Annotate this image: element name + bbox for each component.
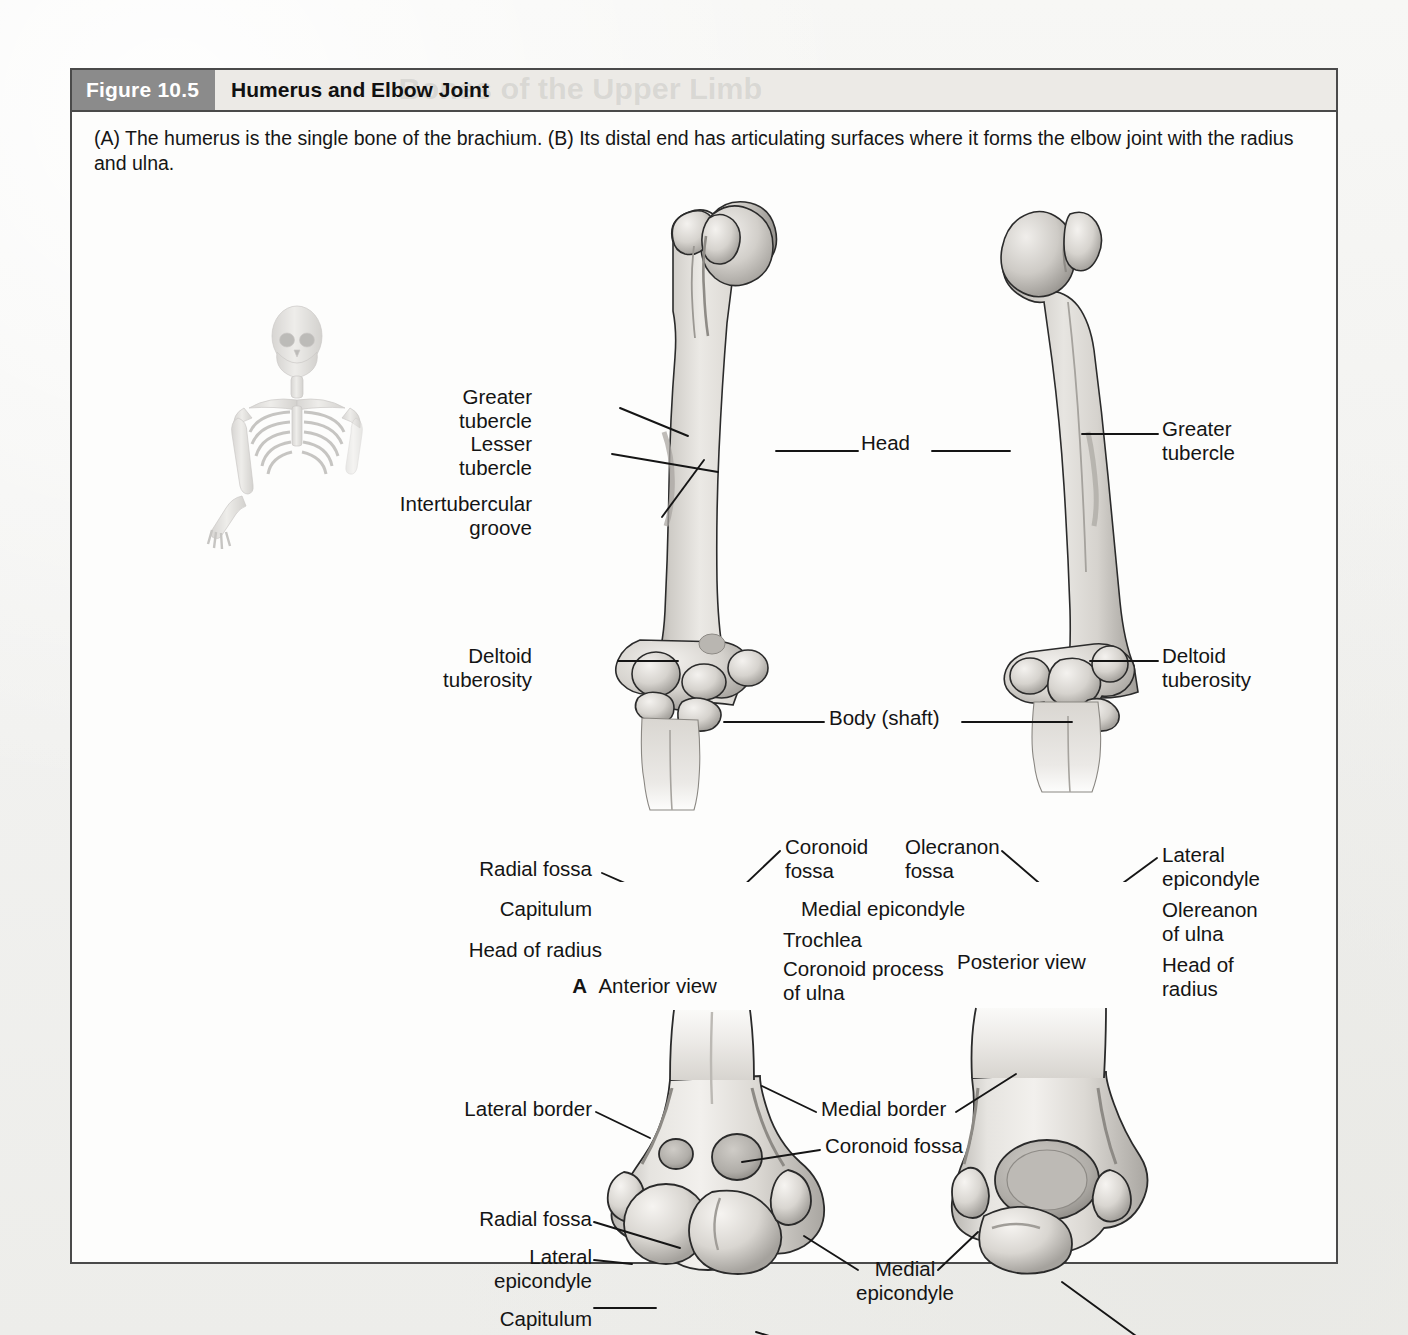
humerus-posterior — [1001, 211, 1138, 792]
label-lateral-border: Lateral border — [392, 1097, 592, 1121]
label-deltoid-tuberosity-anterior: Deltoid tuberosity — [372, 644, 532, 692]
label-head-of-radius-posterior: Head of radius — [1162, 953, 1234, 1001]
label-lesser-tubercle: Lesser tubercle — [372, 432, 532, 480]
panel-a-anterior-view-text: Anterior view — [598, 974, 717, 997]
panel-a-letter: A — [572, 974, 587, 997]
figure-title: Humerus and Elbow Joint — [215, 70, 489, 110]
label-olecranon-of-ulna: Olereanon of ulna — [1162, 898, 1258, 946]
label-coronoid-process-of-ulna: Coronoid process of ulna — [783, 957, 944, 1005]
figure-artwork: Greater tubercle Lesser tubercle Intertu… — [72, 182, 1336, 1262]
label-coronoid-fossa-distal: Coronoid fossa — [825, 1134, 963, 1158]
humerus-anterior — [616, 202, 777, 810]
label-medial-epicondyle-anterior: Medial epicondyle — [801, 897, 965, 921]
label-greater-tubercle-anterior: Greater tubercle — [372, 385, 532, 433]
label-body-shaft: Body (shaft) — [829, 706, 940, 730]
panel-b-illustration — [72, 1002, 1336, 1335]
figure-header: Bones of the Upper Limb Figure 10.5 Hume… — [72, 70, 1336, 112]
panel-a-right-caption: Posterior view — [957, 950, 1086, 974]
figure-box: Bones of the Upper Limb Figure 10.5 Hume… — [70, 68, 1338, 1264]
label-radial-fossa-anterior: Radial fossa — [402, 857, 592, 881]
label-coronoid-fossa-anterior: Coronoid fossa — [785, 835, 868, 883]
panel-a-illustration — [72, 182, 1336, 882]
label-lateral-epicondyle-posterior: Lateral epicondyle — [1162, 843, 1260, 891]
distal-humerus-anterior — [608, 1010, 824, 1274]
label-medial-border: Medial border — [821, 1097, 946, 1121]
figure-number-tab: Figure 10.5 — [72, 70, 215, 110]
label-olecranon-fossa-posterior: Olecranon fossa — [905, 835, 1000, 883]
label-head: Head — [861, 431, 910, 455]
label-lateral-epicondyle-distal: Lateral epicondyle — [392, 1245, 592, 1293]
label-trochlea-anterior: Trochlea — [783, 928, 862, 952]
label-medial-epicondyle-distal: Medial epicondyle — [855, 1257, 955, 1305]
figure-caption: (A) The humerus is the single bone of th… — [72, 112, 1331, 182]
label-greater-tubercle-posterior: Greater tubercle — [1162, 417, 1235, 465]
distal-humerus-posterior — [952, 1008, 1148, 1274]
label-radial-fossa-distal: Radial fossa — [392, 1207, 592, 1231]
label-deltoid-tuberosity-posterior: Deltoid tuberosity — [1162, 644, 1251, 692]
label-intertubercular-groove: Intertubercular groove — [312, 492, 532, 540]
label-capitulum-distal: Capitulum — [392, 1307, 592, 1331]
label-capitulum-anterior: Capitulum — [402, 897, 592, 921]
